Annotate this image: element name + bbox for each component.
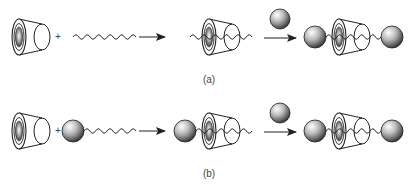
cone-cavity xyxy=(205,121,212,141)
panel-label-a: (a) xyxy=(203,74,215,85)
axle-reactant-a xyxy=(73,35,136,39)
stopper-ball-reagent-b xyxy=(270,103,290,123)
scheme-diagram: (a) (b) + + xyxy=(0,0,416,189)
cone-wide-rim xyxy=(224,24,240,50)
stopper-ball-reagent-a xyxy=(270,9,290,29)
cone-cavity xyxy=(15,27,22,47)
stopper-ball-product-left-a xyxy=(304,26,326,48)
cone-wide-rim xyxy=(224,118,240,144)
stopper-ball-product-right-a xyxy=(381,26,403,48)
plus-sign-a: + xyxy=(55,31,61,42)
panel-label-b: (b) xyxy=(203,168,215,179)
axle-intermediate-a xyxy=(190,35,252,39)
cone-wide-rim xyxy=(34,24,50,50)
cyclodextrin-cone-reactant-b xyxy=(12,113,50,149)
stopper-ball-product-right-b xyxy=(381,120,403,142)
stopper-ball-product-left-b xyxy=(304,120,326,142)
cone-wide-rim xyxy=(354,118,370,144)
cyclodextrin-cone-reactant-a xyxy=(12,19,50,55)
plus-sign-b: + xyxy=(55,125,61,136)
cone-wide-rim xyxy=(354,24,370,50)
cone-cavity xyxy=(15,121,22,141)
cone-wide-rim xyxy=(34,118,50,144)
cyclodextrin-cone-intermediate-a xyxy=(202,19,240,55)
stopper-ball-intermediate-b xyxy=(174,120,196,142)
axle-reactant-b xyxy=(84,129,136,133)
stopper-ball-reactant-b xyxy=(62,120,84,142)
